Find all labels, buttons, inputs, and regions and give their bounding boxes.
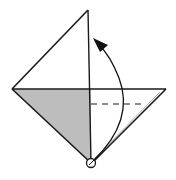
- arrow-head-icon: [93, 38, 108, 52]
- upper-left-edge: [12, 10, 88, 89]
- right-flap-edge: [93, 89, 166, 162]
- origami-diagram: [0, 0, 176, 180]
- fold-arrow: [94, 45, 123, 160]
